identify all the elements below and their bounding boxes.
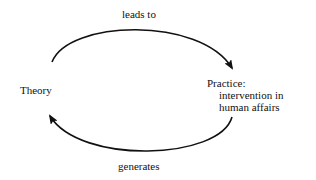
node-practice-subline: human affairs [219,101,280,113]
node-practice-subline: intervention in [219,89,283,101]
edge-label-generates: generates [118,160,160,172]
node-practice: Practice: [207,77,245,89]
leads-to-arrow [52,30,232,68]
node-theory: Theory [20,84,52,96]
generates-arrow [50,116,232,151]
edge-label-leads-to: leads to [122,8,156,20]
theory-practice-cycle-diagram: leads to Theory Practice: intervention i… [0,0,316,180]
